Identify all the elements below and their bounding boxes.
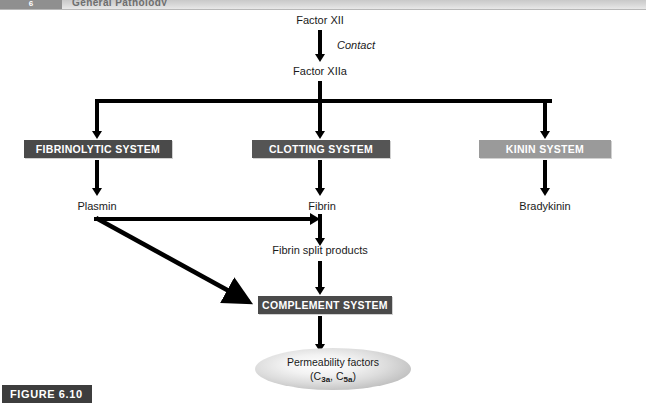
c3a-subscript: 3a bbox=[321, 375, 330, 384]
arrow-to-kinin-system bbox=[539, 99, 551, 141]
node-plasmin: Plasmin bbox=[77, 200, 116, 212]
page-header-title: General Pathology bbox=[72, 0, 167, 6]
c5a-subscript: 5a bbox=[344, 375, 353, 384]
arrow-kinin-to-bradykinin bbox=[539, 160, 551, 198]
arrow-fibrin-to-split-products bbox=[314, 214, 326, 246]
c5a-suffix: ) bbox=[352, 370, 356, 382]
box-kinin-system: KININ SYSTEM bbox=[479, 140, 611, 158]
c3a-prefix: (C bbox=[310, 370, 321, 382]
permeability-line-1: Permeability factors bbox=[287, 355, 379, 369]
connector-xiia-stem bbox=[318, 81, 322, 101]
chapter-number-tab: 6 bbox=[0, 0, 62, 9]
c-separator: , C bbox=[330, 370, 343, 382]
arrow-clotting-to-fibrin bbox=[314, 160, 326, 198]
connector-plasmin-to-fibrin bbox=[94, 217, 316, 221]
arrow-to-clotting-system bbox=[314, 99, 326, 141]
figure-page: 6 General Pathology Factor XII Contact F… bbox=[0, 0, 646, 409]
permeability-factors-label: Permeability factors (C3a, C5a) bbox=[287, 355, 379, 387]
node-factor-xiia: Factor XIIa bbox=[293, 65, 347, 77]
box-complement-system: COMPLEMENT SYSTEM bbox=[258, 296, 392, 314]
arrow-fibrinolytic-to-plasmin bbox=[91, 160, 103, 198]
page-header-band: 6 General Pathology bbox=[0, 0, 646, 9]
permeability-line-2: (C3a, C5a) bbox=[287, 369, 379, 387]
box-clotting-system: CLOTTING SYSTEM bbox=[252, 140, 390, 158]
node-fibrin-split-products: Fibrin split products bbox=[272, 244, 367, 256]
arrow-split-products-to-complement bbox=[314, 261, 326, 297]
node-bradykinin: Bradykinin bbox=[519, 200, 570, 212]
box-fibrinolytic-system: FIBRINOLYTIC SYSTEM bbox=[24, 140, 172, 158]
arrow-factor-xii-to-xiia bbox=[314, 30, 326, 62]
header-divider bbox=[0, 9, 646, 10]
figure-number-tag: FIGURE 6.10 bbox=[2, 385, 92, 403]
label-contact: Contact bbox=[337, 39, 375, 51]
node-factor-xii: Factor XII bbox=[296, 14, 344, 26]
node-fibrin: Fibrin bbox=[308, 200, 336, 212]
arrow-to-fibrinolytic-system bbox=[91, 99, 103, 141]
